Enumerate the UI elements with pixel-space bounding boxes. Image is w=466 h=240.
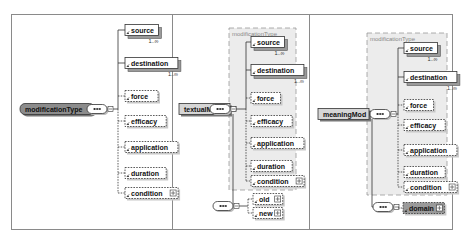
element-name: source [257, 39, 280, 46]
element-node-condition[interactable]: condition [125, 188, 180, 201]
sequence-dot [222, 108, 223, 110]
element-name: efficacy [410, 122, 436, 130]
element-name: efficacy [257, 118, 283, 126]
element-node-domain[interactable]: domain [403, 203, 446, 216]
element-node-efficacy[interactable]: efficacy [125, 116, 168, 129]
element-node-efficacy[interactable]: efficacy [251, 116, 294, 129]
element-node-application[interactable]: application [125, 142, 180, 155]
sequence-dot [383, 206, 384, 208]
sequence-dot [225, 205, 226, 207]
schema-diagram-canvas: modificationTypesource1..∞destination1..… [0, 0, 466, 240]
sequence-dot [380, 113, 381, 115]
element-name: efficacy [131, 118, 157, 126]
occurrence-label: 1..∞ [274, 50, 284, 56]
sequence-dot [385, 206, 386, 208]
element-name: destination [257, 67, 294, 74]
element-node-application[interactable]: application [251, 138, 306, 151]
element-name: duration [257, 163, 285, 170]
sequence-dot [377, 113, 378, 115]
element-node-condition[interactable]: condition [404, 182, 459, 195]
element-name: destination [410, 74, 447, 81]
element-name: condition [131, 190, 163, 197]
element-name: old [259, 196, 270, 203]
element-name: source [410, 45, 433, 52]
element-name: application [410, 147, 447, 155]
type-group-label: modificationType [232, 31, 278, 37]
occurrence-label: 1..∞ [148, 38, 158, 44]
sequence-dot [223, 205, 224, 207]
occurrence-label: 1..∞ [168, 71, 178, 77]
element-name: domain [409, 205, 434, 212]
element-name: application [131, 144, 168, 152]
element-name: condition [410, 184, 442, 191]
sequence-dot [220, 108, 221, 110]
type-group-label: modificationType [370, 36, 416, 42]
element-node-force[interactable]: force [251, 93, 283, 106]
element-name: force [131, 93, 148, 100]
element-node-force[interactable]: force [404, 100, 436, 113]
sequence-dot [382, 113, 383, 115]
element-node-duration[interactable]: duration [125, 168, 168, 181]
element-name: duration [131, 170, 159, 177]
sequence-dot [380, 206, 381, 208]
occurrence-label: 1..∞ [294, 78, 304, 84]
root-name: modificationType [25, 106, 83, 114]
element-node-force[interactable]: force [125, 91, 160, 104]
occurrence-label: 1..∞ [427, 56, 437, 62]
element-name: new [259, 210, 273, 217]
element-node-efficacy[interactable]: efficacy [404, 120, 447, 133]
element-name: condition [257, 178, 289, 185]
root-name: meaningMod [323, 111, 366, 119]
sequence-dot [220, 205, 221, 207]
element-name: duration [410, 169, 438, 176]
occurrence-label: 1..∞ [447, 85, 457, 91]
sequence-dot [94, 108, 95, 110]
element-node-duration[interactable]: duration [404, 167, 447, 180]
sequence-dot [97, 108, 98, 110]
element-name: destination [131, 60, 168, 67]
element-name: application [257, 140, 294, 148]
element-name: force [410, 102, 427, 109]
element-node-old[interactable]: old [253, 194, 285, 207]
element-node-duration[interactable]: duration [251, 161, 294, 174]
element-name: source [131, 27, 154, 34]
element-name: force [257, 95, 274, 102]
element-node-condition[interactable]: condition [251, 176, 306, 189]
element-node-new[interactable]: new [253, 208, 285, 221]
sequence-dot [217, 108, 218, 110]
root-node-meaningMod[interactable]: meaningMod [318, 109, 375, 122]
element-node-application[interactable]: application [404, 145, 459, 158]
sequence-dot [99, 108, 100, 110]
